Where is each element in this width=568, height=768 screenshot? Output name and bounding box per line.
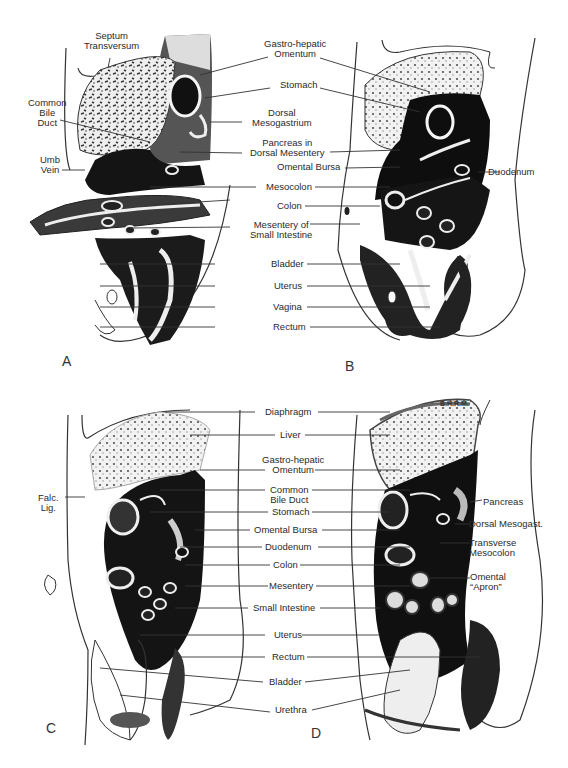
- label-bladder-bottom: Bladder: [269, 677, 302, 687]
- label-duodenum-top: Duodenum: [488, 167, 534, 177]
- label-vagina: Vagina: [273, 302, 302, 312]
- label-septum-transversum: Septum Transversum: [84, 31, 139, 51]
- label-pancreas-dorsal-mesentery: Pancreas in Dorsal Mesentery: [250, 138, 324, 158]
- panel-d-drawing: [352, 399, 543, 740]
- panel-b-drawing: [338, 38, 535, 340]
- label-falc-lig: Falc. Lig.: [38, 493, 59, 513]
- label-small-intestine: Small Intestine: [253, 603, 315, 613]
- label-dorsal-mesogast: Dorsal Mesogast.: [469, 519, 543, 529]
- label-dorsal-mesogastrium: Dorsal Mesogastrium: [252, 108, 312, 128]
- label-duodenum-bottom: Duodenum: [265, 542, 311, 552]
- panel-letter-b: B: [345, 358, 354, 374]
- label-liver: Liver: [280, 430, 301, 440]
- artist-signature: B.H.R.M.: [440, 399, 469, 409]
- label-rectum-bottom: Rectum: [272, 652, 305, 662]
- label-gastro-hepatic-omentum-top: Gastro-hepatic Omentum: [264, 39, 326, 59]
- label-mesocolon: Mesocolon: [266, 182, 312, 192]
- label-diaphragm: Diaphragm: [265, 407, 311, 417]
- label-omental-bursa-top: Omental Bursa: [277, 162, 340, 172]
- label-bladder-top: Bladder: [271, 259, 304, 269]
- label-colon-bottom: Colon: [273, 560, 298, 570]
- label-colon-top: Colon: [277, 201, 302, 211]
- label-gastro-hepatic-omentum-bottom: Gastro-hepatic Omentum: [262, 455, 324, 475]
- label-common-bile-duct-bottom: Common Bile Duct: [270, 485, 309, 505]
- label-stomach-bottom: Stomach: [272, 507, 310, 517]
- anatomy-figure: A B C D Septum Transversum Common Bile D…: [0, 0, 568, 768]
- panel-c-drawing: [44, 410, 243, 745]
- label-rectum-top: Rectum: [273, 322, 306, 332]
- label-omental-apron: Omental “Apron”: [470, 572, 506, 592]
- label-uterus-top: Uterus: [274, 281, 302, 291]
- label-pancreas: Pancreas: [483, 497, 523, 507]
- label-mesentery: Mesentery: [269, 581, 313, 591]
- label-mesentery-small-intestine: Mesentery of Small Intestine: [250, 220, 312, 240]
- label-common-bile-duct-a: Common Bile Duct: [28, 98, 67, 128]
- panel-a-drawing: [30, 34, 230, 345]
- panel-letter-a: A: [62, 353, 71, 369]
- label-stomach-top: Stomach: [280, 80, 318, 90]
- label-transverse-mesocolon: Transverse Mesocolon: [469, 538, 516, 558]
- label-umb-vein: Umb Vein: [40, 155, 60, 175]
- panel-letter-c: C: [46, 720, 56, 736]
- panel-letter-d: D: [311, 725, 321, 741]
- label-omental-bursa-bottom: Omental Bursa: [254, 525, 317, 535]
- label-uterus-bottom: Uterus: [274, 630, 302, 640]
- label-urethra: Urethra: [275, 705, 307, 715]
